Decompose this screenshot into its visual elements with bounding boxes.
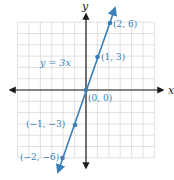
point-neg1-neg3 [73, 123, 78, 128]
point-label-1-3: (1, 3) [101, 52, 125, 62]
point-2-6 [108, 21, 113, 26]
chart-canvas: y x y = 3x (2, 6) (1, 3) (0, 0) (−1, −3)… [0, 0, 174, 180]
point-label-0-0: (0, 0) [88, 93, 112, 103]
point-label-neg1-neg3: (−1, −3) [26, 119, 65, 129]
point-neg2-neg6 [60, 156, 65, 161]
y-axis-label: y [81, 0, 89, 13]
x-axis-label: x [168, 84, 174, 97]
point-label-2-6: (2, 6) [113, 19, 137, 29]
point-label-neg2-neg6: (−2, −6) [20, 152, 59, 162]
equation-label: y = 3x [39, 57, 71, 68]
point-1-3 [95, 55, 100, 60]
point-0-0 [84, 88, 89, 93]
